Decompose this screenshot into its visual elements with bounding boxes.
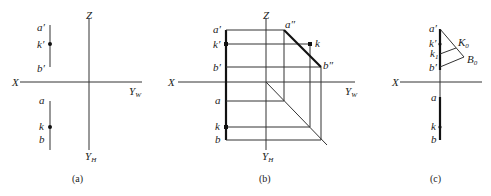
label-b: b	[39, 133, 45, 145]
label-B0: B0	[467, 53, 478, 67]
caption-b: (b)	[259, 173, 271, 185]
line-B0-b-prime	[440, 57, 464, 67]
label-b-prime: b′	[429, 61, 438, 73]
label-a-prime: a′	[429, 22, 438, 34]
label-z: Z	[86, 9, 93, 21]
caption-c: (c)	[430, 173, 441, 185]
label-x: X	[167, 76, 176, 88]
label-b: b	[431, 133, 437, 145]
label-k1: k1	[430, 47, 438, 61]
label-a-prime: a′	[213, 23, 222, 35]
label-k: k	[215, 120, 221, 132]
label-yw: YW	[345, 85, 358, 99]
label-a: a	[431, 91, 437, 103]
label-k-dprime: k	[315, 37, 321, 49]
panel-b: Z X YH YW a′ k′ b′ a″ k b″ a k b (b)	[167, 9, 358, 185]
label-x: X	[11, 76, 20, 88]
label-k-prime: k′	[213, 38, 221, 50]
point-k	[48, 125, 52, 129]
label-a: a	[39, 94, 45, 106]
projection-diagram: Z X YW YH a′ k′ b′ a k b (a) Z	[0, 0, 491, 196]
label-b-prime: b′	[37, 62, 46, 74]
label-yh: YH	[262, 150, 274, 164]
panel-a: Z X YW YH a′ k′ b′ a k b (a)	[11, 9, 142, 185]
point-k-dprime	[308, 42, 312, 46]
label-a-prime: a′	[37, 21, 46, 33]
label-a-dprime: a″	[285, 18, 296, 30]
label-yh: YH	[85, 150, 97, 164]
point-k	[438, 125, 441, 128]
point-k-prime	[224, 42, 228, 46]
label-z: Z	[263, 9, 270, 21]
point-k-prime	[438, 42, 441, 45]
label-K0: K0	[457, 36, 469, 50]
point-k	[224, 125, 228, 129]
label-x: X	[391, 76, 400, 88]
label-k-prime: k′	[37, 38, 45, 50]
point-k-prime	[48, 42, 52, 46]
label-b-prime: b′	[213, 61, 222, 73]
panel-c: X a′ k′ k1 b′ K0 B0 a k b (c)	[391, 22, 482, 185]
caption-a: (a)	[72, 173, 83, 185]
label-a: a	[215, 94, 221, 106]
label-k: k	[431, 120, 437, 132]
diagonal-45	[266, 82, 327, 145]
label-k: k	[39, 120, 45, 132]
line-k1-K0	[440, 48, 456, 54]
label-yw: YW	[129, 85, 142, 99]
label-b: b	[215, 133, 221, 145]
label-b-dprime: b″	[323, 59, 334, 71]
